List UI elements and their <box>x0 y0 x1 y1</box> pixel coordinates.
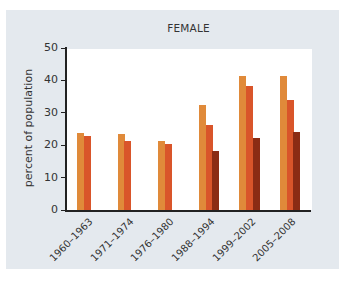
y-tick-label: 30 <box>28 106 58 119</box>
y-axis-line <box>65 47 67 211</box>
bar <box>293 132 300 210</box>
y-axis-title: percent of population <box>22 69 35 187</box>
bar <box>124 141 131 210</box>
y-tick-label: 0 <box>28 203 58 216</box>
y-tick-label: 50 <box>28 41 58 54</box>
x-axis-line <box>65 210 311 212</box>
plot-area <box>65 49 312 210</box>
bar <box>165 144 172 210</box>
y-tick-label: 40 <box>28 73 58 86</box>
bar <box>84 136 91 210</box>
y-tick-label: 20 <box>28 138 58 151</box>
bar <box>212 151 219 210</box>
y-tick-label: 10 <box>28 171 58 184</box>
bar <box>253 138 260 210</box>
chart-title: FEMALE <box>65 22 312 34</box>
